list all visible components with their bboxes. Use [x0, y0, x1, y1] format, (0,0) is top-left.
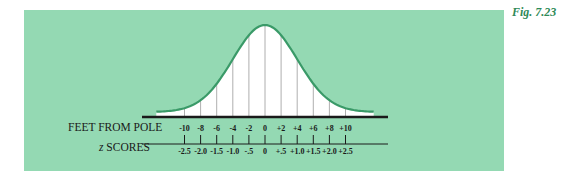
z-tick-label: -1.5	[210, 147, 223, 156]
z-tick-label: 0	[263, 147, 267, 156]
z-scores-label: z SCORES	[99, 141, 150, 153]
z-tick-label: -.5	[245, 147, 254, 156]
z-tick-label: -2.5	[178, 147, 191, 156]
z-tick-label: +2.0	[322, 147, 337, 156]
figure-number: Fig. 7.23	[512, 5, 556, 20]
feet-tick-label: +2	[277, 124, 286, 133]
feet-tick-label: +6	[309, 124, 318, 133]
z-tick-label: +1.0	[290, 147, 305, 156]
feet-tick-label: -2	[246, 124, 253, 133]
feet-tick-label: 0	[263, 124, 267, 133]
scores-text: SCORES	[103, 141, 149, 153]
z-tick-label: +1.5	[306, 147, 321, 156]
feet-tick-label: -4	[229, 124, 236, 133]
feet-tick-label: +10	[339, 124, 352, 133]
feet-tick-label: -6	[213, 124, 220, 133]
feet-tick-label: +4	[293, 124, 302, 133]
z-tick-label: +2.5	[338, 147, 353, 156]
z-tick-label: -2.0	[194, 147, 207, 156]
z-tick-label: -1.0	[226, 147, 239, 156]
feet-tick-label: +8	[325, 124, 334, 133]
z-tick-label: +.5	[276, 147, 287, 156]
feet-tick-label: -10	[179, 124, 190, 133]
feet-tick-marks	[185, 135, 346, 144]
feet-from-pole-label: FEET FROM POLE	[68, 121, 162, 133]
feet-tick-label: -8	[197, 124, 204, 133]
